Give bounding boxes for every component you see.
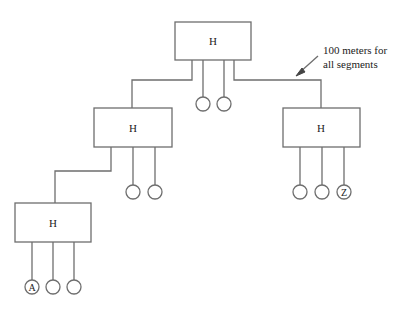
station-node xyxy=(148,185,162,199)
middle-left-hub-stations xyxy=(126,147,162,199)
station-label-z: Z xyxy=(341,187,347,198)
station-node xyxy=(315,185,329,199)
hub-label-bottom-left: H xyxy=(49,217,57,229)
link-middle-left-to-bottom-left xyxy=(55,147,111,203)
annotation-line-2: all segments xyxy=(323,58,378,70)
station-label-a: A xyxy=(28,282,36,293)
link-top-to-middle-right xyxy=(234,60,321,108)
hub-label-middle-right: H xyxy=(317,122,325,134)
annotation-arrow-icon xyxy=(296,56,318,76)
hub-label-middle-left: H xyxy=(129,122,137,134)
station-node xyxy=(46,280,60,294)
station-node xyxy=(126,185,140,199)
hub-topology-diagram: H H H H Z A 100 meters for all segments xyxy=(0,0,397,312)
top-hub-stations xyxy=(196,60,231,111)
station-node xyxy=(196,97,210,111)
link-top-to-middle-left xyxy=(132,60,192,108)
annotation-line-1: 100 meters for xyxy=(323,44,387,56)
station-node xyxy=(293,185,307,199)
station-node xyxy=(67,280,81,294)
station-node xyxy=(217,97,231,111)
hub-label-top: H xyxy=(209,35,217,47)
